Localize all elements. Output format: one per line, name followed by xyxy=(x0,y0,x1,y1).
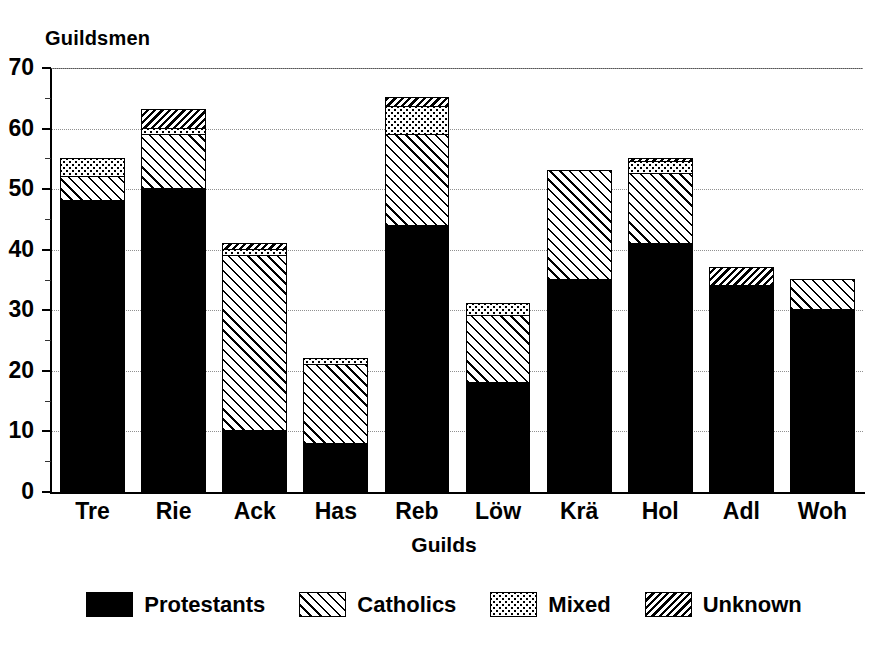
legend-item-protestants[interactable]: Protestants xyxy=(86,592,265,617)
legend-item-catholics[interactable]: Catholics xyxy=(299,592,456,617)
bar-segment-Tre-mixed xyxy=(60,158,125,177)
x-tick-label-Has: Has xyxy=(295,500,376,523)
bar-segment-Löw-protestants xyxy=(466,382,531,492)
bar-segment-Ack-protestants xyxy=(222,430,287,492)
bar-segment-Has-mixed xyxy=(303,358,368,365)
x-tick-label-Löw: Löw xyxy=(458,500,539,523)
bar-Reb xyxy=(385,97,450,492)
legend-label-unknown: Unknown xyxy=(703,594,802,616)
bar-segment-Reb-mixed xyxy=(385,106,450,134)
bar-segment-Löw-mixed xyxy=(466,303,531,316)
bar-segment-Woh-protestants xyxy=(790,309,855,492)
chart-legend: ProtestantsCatholicsMixedUnknown xyxy=(0,592,888,617)
bar-Adl xyxy=(709,267,774,492)
bar-segment-Rie-catholics xyxy=(141,134,206,190)
bar-segment-Tre-catholics xyxy=(60,176,125,201)
x-tick-label-Tre: Tre xyxy=(52,500,133,523)
bar-Löw xyxy=(466,303,531,492)
bar-segment-Hol-catholics xyxy=(628,173,693,244)
x-tick-label-Krä: Krä xyxy=(539,500,620,523)
bar-segment-Adl-unknown xyxy=(709,267,774,286)
solid-black-swatch xyxy=(86,592,133,617)
bar-segment-Rie-protestants xyxy=(141,188,206,492)
bar-Tre xyxy=(60,158,125,492)
bar-Ack xyxy=(222,243,287,492)
bar-segment-Ack-catholics xyxy=(222,255,287,432)
bar-Has xyxy=(303,358,368,492)
x-tick-label-Rie: Rie xyxy=(133,500,214,523)
bar-segment-Ack-unknown xyxy=(222,243,287,250)
x-tick-label-Ack: Ack xyxy=(214,500,295,523)
bar-Woh xyxy=(790,279,855,492)
x-axis-title: Guilds xyxy=(0,533,888,557)
bar-segment-Hol-protestants xyxy=(628,243,693,492)
legend-item-unknown[interactable]: Unknown xyxy=(645,592,802,617)
bar-segment-Reb-protestants xyxy=(385,225,450,493)
bar-Hol xyxy=(628,158,693,492)
bar-segment-Rie-unknown xyxy=(141,109,206,128)
bar-Rie xyxy=(141,109,206,492)
bar-segment-Hol-unknown xyxy=(628,158,693,162)
stacked-bar-chart: Guildsmen 010203040506070 TreRieAckHasRe… xyxy=(0,0,888,650)
bar-segment-Löw-catholics xyxy=(466,315,531,383)
x-tick-label-Woh: Woh xyxy=(782,500,863,523)
x-tick-label-Reb: Reb xyxy=(376,500,457,523)
bar-segment-Reb-catholics xyxy=(385,134,450,226)
bar-segment-Rie-mixed xyxy=(141,128,206,135)
bar-Krä xyxy=(547,170,612,492)
bar-segment-Tre-protestants xyxy=(60,200,125,492)
dotted-stipple-swatch xyxy=(490,592,537,617)
bar-segment-Adl-protestants xyxy=(709,285,774,492)
bar-segment-Reb-unknown xyxy=(385,97,450,107)
legend-label-mixed: Mixed xyxy=(548,594,610,616)
bar-segment-Hol-mixed xyxy=(628,161,693,174)
x-tick-label-Adl: Adl xyxy=(701,500,782,523)
legend-item-mixed[interactable]: Mixed xyxy=(490,592,610,617)
bar-segment-Woh-catholics xyxy=(790,279,855,310)
bar-segment-Ack-mixed xyxy=(222,249,287,256)
dense-hatch-swatch xyxy=(645,592,692,617)
bar-segment-Krä-protestants xyxy=(547,279,612,492)
x-tick-label-Hol: Hol xyxy=(620,500,701,523)
legend-label-catholics: Catholics xyxy=(357,594,456,616)
legend-label-protestants: Protestants xyxy=(144,594,265,616)
bar-segment-Krä-catholics xyxy=(547,170,612,280)
bar-segment-Has-protestants xyxy=(303,443,368,492)
diagonal-hatch-swatch xyxy=(299,592,346,617)
bar-segment-Has-catholics xyxy=(303,364,368,444)
